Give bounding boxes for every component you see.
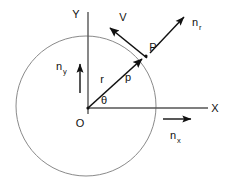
diagram-canvas: Y X O P r p θ V n r n y n x (0, 0, 234, 182)
radius-vector (88, 59, 142, 108)
normal-y-label: n y (56, 60, 67, 76)
x-axis-label: X (211, 102, 219, 114)
point-p-label: P (149, 41, 156, 53)
origin-marker (86, 106, 89, 109)
normal-x-label: n x (170, 129, 181, 145)
reference-circle (16, 36, 156, 176)
normal-y-base: n (56, 60, 62, 72)
position-label: p (125, 71, 131, 83)
normal-y-subscript: y (63, 67, 67, 76)
polar-coordinate-diagram: Y X O P r p θ V n r n y n x (0, 0, 234, 182)
normal-x-subscript: x (177, 136, 181, 145)
normal-r-label: n r (192, 16, 202, 32)
angle-theta-label: θ (101, 94, 107, 106)
normal-r-subscript: r (199, 23, 202, 32)
origin-label: O (76, 117, 85, 129)
point-p-marker (144, 54, 147, 57)
normal-r-base: n (192, 16, 198, 28)
velocity-label: V (119, 11, 127, 23)
radius-label: r (100, 73, 104, 85)
normal-x-base: n (170, 129, 176, 141)
y-axis-label: Y (72, 8, 80, 20)
